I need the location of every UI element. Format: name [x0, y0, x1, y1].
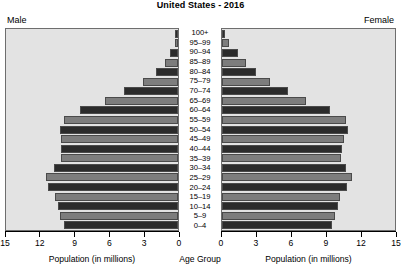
bar: [222, 87, 288, 95]
bar-row: [6, 115, 178, 125]
bar-row: [222, 173, 395, 183]
axis-tick-label: 0: [177, 238, 182, 248]
bar-row: [6, 144, 178, 154]
bar: [222, 193, 340, 201]
bar: [64, 221, 178, 229]
axis-tick-label: 9: [72, 238, 77, 248]
bar: [222, 30, 225, 38]
bar-row: [222, 144, 395, 154]
bar: [222, 49, 238, 57]
female-bars-container: [222, 29, 395, 230]
age-group-label: 70–74: [179, 86, 221, 96]
bar: [46, 173, 178, 181]
bar-row: [6, 48, 178, 58]
bar-row: [222, 134, 395, 144]
bar: [156, 68, 178, 76]
bar-row: [6, 173, 178, 183]
bar: [61, 135, 178, 143]
bar-row: [222, 115, 395, 125]
male-plot-panel: [5, 28, 179, 231]
age-group-label: 25–29: [179, 173, 221, 183]
age-group-label: 65–69: [179, 96, 221, 106]
age-group-label: 20–24: [179, 183, 221, 193]
bar-row: [6, 182, 178, 192]
bar-row: [222, 163, 395, 173]
axis-tick: [396, 232, 397, 237]
bar: [222, 97, 306, 105]
axis-tick: [109, 232, 110, 237]
bar: [55, 193, 178, 201]
age-group-label: 10–14: [179, 202, 221, 212]
axis-tick-label: 0: [219, 238, 224, 248]
bar-row: [222, 39, 395, 49]
bar-row: [222, 58, 395, 68]
bar: [64, 116, 178, 124]
age-group-axis: 100+95–9990–9485–8980–8475–7970–7465–696…: [179, 28, 221, 231]
bar-row: [6, 86, 178, 96]
bar: [222, 78, 270, 86]
age-group-label: 35–39: [179, 154, 221, 164]
bar-row: [222, 182, 395, 192]
bar-row: [6, 192, 178, 202]
bar-row: [222, 106, 395, 116]
bar: [175, 39, 178, 47]
axis-tick: [361, 232, 362, 237]
bar-row: [222, 96, 395, 106]
age-group-label: 60–64: [179, 105, 221, 115]
bar-row: [6, 29, 178, 39]
axis-tick-label: 9: [324, 238, 329, 248]
bar-row: [222, 29, 395, 39]
female-axis-title: Population (in millions): [221, 254, 396, 264]
bar-row: [6, 58, 178, 68]
population-pyramid-chart: United States - 2016 Male Female 100+95–…: [0, 0, 401, 275]
bar-row: [222, 125, 395, 135]
age-group-label: 5–9: [179, 211, 221, 221]
bar: [222, 164, 346, 172]
axis-tick-label: 3: [254, 238, 259, 248]
bar: [222, 116, 346, 124]
female-panel-label: Female: [364, 15, 394, 25]
bar: [61, 154, 178, 162]
bar-row: [222, 48, 395, 58]
axis-tick: [221, 232, 222, 237]
axis-tick: [5, 232, 6, 237]
bar: [222, 212, 335, 220]
age-group-label: 15–19: [179, 192, 221, 202]
female-x-tick-labels: 03691215: [221, 238, 396, 250]
bar: [222, 59, 246, 67]
center-axis-title: Age Group: [179, 254, 221, 264]
bar: [222, 39, 229, 47]
axis-tick: [39, 232, 40, 237]
bar-row: [222, 77, 395, 87]
male-bars-container: [6, 29, 178, 230]
axis-tick-label: 12: [356, 238, 366, 248]
bar: [61, 145, 178, 153]
age-group-label: 55–59: [179, 115, 221, 125]
male-panel-label: Male: [7, 15, 27, 25]
bar: [222, 183, 347, 191]
bar: [222, 173, 352, 181]
axis-tick-label: 6: [289, 238, 294, 248]
axis-tick: [326, 232, 327, 237]
age-group-label: 85–89: [179, 57, 221, 67]
chart-title: United States - 2016: [0, 0, 401, 10]
bar: [54, 164, 178, 172]
age-group-label: 95–99: [179, 38, 221, 48]
age-group-label: 0–4: [179, 221, 221, 231]
male-x-axis: [5, 231, 179, 237]
axis-tick-label: 12: [35, 238, 45, 248]
bar-row: [6, 39, 178, 49]
bar: [222, 106, 330, 114]
male-axis-title: Population (in millions): [5, 254, 179, 264]
bar-row: [6, 134, 178, 144]
bar: [60, 212, 178, 220]
bar-row: [6, 67, 178, 77]
axis-tick: [144, 232, 145, 237]
age-group-label: 30–34: [179, 163, 221, 173]
bar: [175, 30, 178, 38]
bar-row: [6, 106, 178, 116]
axis-tick-label: 15: [391, 238, 401, 248]
age-group-label: 45–49: [179, 134, 221, 144]
bar-row: [6, 77, 178, 87]
bar-row: [6, 221, 178, 231]
